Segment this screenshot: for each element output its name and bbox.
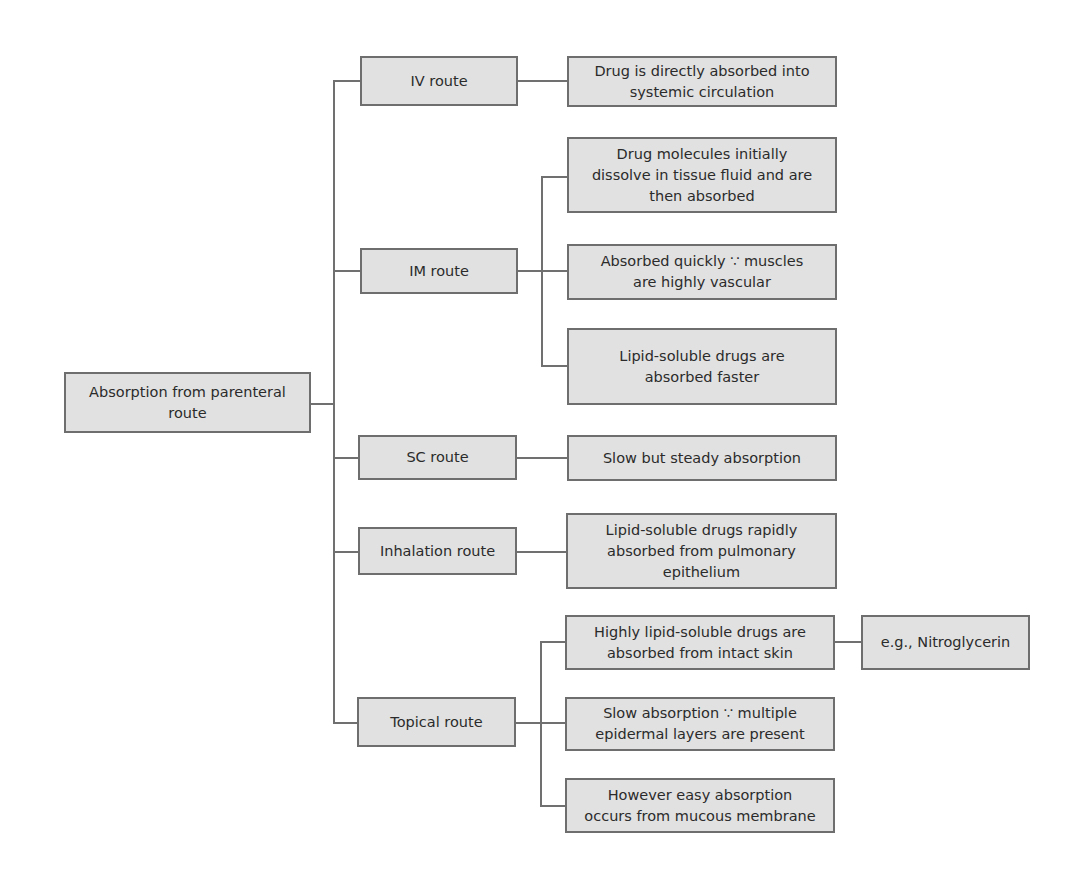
connector-topical: [333, 722, 360, 724]
detail-topical-3: However easy absorption occurs from muco…: [565, 778, 835, 833]
detail-label: Lipid-soluble drugs are absorbed faster: [619, 346, 784, 388]
spine-topical: [540, 641, 542, 806]
detail-label: Drug is directly absorbed into systemic …: [594, 61, 809, 103]
connector-topical-d1: [540, 641, 566, 643]
connector-example: [834, 641, 861, 643]
root-label: Absorption from parenteral route: [89, 382, 286, 424]
connector-im-d2: [541, 270, 567, 272]
detail-inhalation-1: Lipid-soluble drugs rapidly absorbed fro…: [566, 513, 837, 589]
route-inhalation: Inhalation route: [358, 527, 517, 575]
connector-inhalation-detail: [517, 551, 567, 553]
detail-im-1: Drug molecules initially dissolve in tis…: [567, 137, 837, 213]
route-topical: Topical route: [357, 697, 516, 747]
connector-sc-detail: [517, 457, 567, 459]
root-node: Absorption from parenteral route: [64, 372, 311, 433]
detail-label: Drug molecules initially dissolve in tis…: [592, 144, 812, 207]
route-label: IV route: [410, 71, 467, 92]
detail-label: Absorbed quickly ∵ muscles are highly va…: [601, 251, 804, 293]
connector-im-d3: [541, 365, 567, 367]
detail-im-2: Absorbed quickly ∵ muscles are highly va…: [567, 244, 837, 300]
example-nitroglycerin: e.g., Nitroglycerin: [861, 615, 1030, 670]
route-label: SC route: [406, 447, 468, 468]
connector-iv: [333, 80, 360, 82]
detail-label: Highly lipid-soluble drugs are absorbed …: [594, 622, 806, 664]
route-iv: IV route: [360, 56, 518, 106]
route-label: Inhalation route: [380, 541, 495, 562]
connector-im-d1: [541, 176, 567, 178]
detail-label: Slow absorption ∵ multiple epidermal lay…: [595, 703, 804, 745]
connector-im-branch: [517, 270, 542, 272]
connector-inhalation: [333, 551, 360, 553]
connector-root-spine: [310, 403, 334, 405]
detail-topical-2: Slow absorption ∵ multiple epidermal lay…: [565, 697, 835, 751]
detail-label: Slow but steady absorption: [603, 448, 801, 469]
detail-label: However easy absorption occurs from muco…: [584, 785, 815, 827]
spine-main: [333, 80, 335, 723]
route-im: IM route: [360, 248, 518, 294]
detail-sc-1: Slow but steady absorption: [567, 435, 837, 481]
route-sc: SC route: [358, 435, 517, 480]
detail-topical-1: Highly lipid-soluble drugs are absorbed …: [565, 615, 835, 670]
route-label: IM route: [409, 261, 469, 282]
detail-im-3: Lipid-soluble drugs are absorbed faster: [567, 328, 837, 405]
detail-label: Lipid-soluble drugs rapidly absorbed fro…: [606, 520, 798, 583]
example-label: e.g., Nitroglycerin: [881, 632, 1011, 653]
detail-iv-1: Drug is directly absorbed into systemic …: [567, 56, 837, 107]
connector-im: [333, 270, 360, 272]
connector-sc: [333, 457, 360, 459]
connector-topical-branch: [516, 722, 541, 724]
connector-topical-d3: [540, 805, 566, 807]
route-label: Topical route: [390, 712, 482, 733]
connector-iv-detail: [517, 80, 567, 82]
connector-topical-d2: [540, 722, 566, 724]
